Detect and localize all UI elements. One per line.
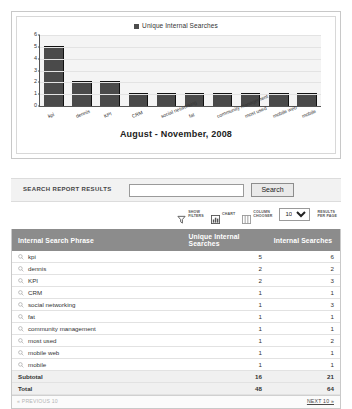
- table-row[interactable]: community management11: [12, 323, 340, 335]
- results-per-page-label: RESULTS PER PAGE: [317, 210, 337, 218]
- columns-icon: [242, 210, 251, 219]
- x-axis-tick-label: KPI: [103, 111, 112, 119]
- cell-unique-searches: 1: [183, 299, 268, 311]
- cell-internal-searches: 1: [268, 287, 340, 299]
- magnifier-icon: [18, 362, 24, 368]
- y-axis-minor-tick: [39, 52, 41, 53]
- cell-internal-searches: 3: [268, 275, 340, 287]
- cell-unique-searches: 1: [183, 323, 268, 335]
- total-row-label: Total: [12, 383, 183, 395]
- cell-internal-searches: 6: [268, 251, 340, 263]
- search-button[interactable]: Search: [251, 183, 294, 197]
- cell-phrase: dennis: [12, 263, 183, 275]
- phrase-label: KPI: [28, 277, 38, 284]
- phrase-label: kpi: [28, 253, 36, 260]
- y-axis-tick-mark: [38, 35, 40, 36]
- x-axis-tick-label: mobile web: [273, 105, 298, 119]
- column-chooser-label: COLUMN CHOOSER: [253, 210, 272, 218]
- cell-unique-searches: 2: [183, 275, 268, 287]
- table-row[interactable]: social networking13: [12, 299, 340, 311]
- table-row[interactable]: mobile11: [12, 359, 340, 371]
- cell-phrase: mobile web: [12, 347, 183, 359]
- cell-unique-searches: 1: [183, 287, 268, 299]
- phrase-label: mobile web: [28, 349, 59, 356]
- grid-line: [40, 59, 321, 60]
- column-header-unique[interactable]: Unique Internal Searches: [183, 229, 268, 251]
- phrase-label: CRM: [28, 289, 42, 296]
- table-row[interactable]: mobile web11: [12, 347, 340, 359]
- grid-line: [40, 71, 321, 72]
- funnel-icon: [177, 210, 186, 219]
- table-row[interactable]: dennis22: [12, 263, 340, 275]
- y-axis-minor-tick: [39, 40, 41, 41]
- plot-area: 0123456: [39, 35, 321, 107]
- table-row[interactable]: CRM11: [12, 287, 340, 299]
- cell-unique-searches: 5: [183, 251, 268, 263]
- chart-panel: Unique Internal Searches 0123456 kpidenn…: [11, 11, 341, 159]
- cell-unique-searches: 1: [183, 347, 268, 359]
- table-row[interactable]: kpi56: [12, 251, 340, 263]
- x-axis-tick-label: dennis: [75, 109, 91, 119]
- magnifier-icon: [18, 266, 24, 272]
- magnifier-icon: [18, 326, 24, 332]
- show-filters-control[interactable]: SHOW FILTERS: [177, 210, 204, 219]
- cell-phrase: social networking: [12, 299, 183, 311]
- cell-internal-searches: 2: [268, 335, 340, 347]
- magnifier-icon: [18, 314, 24, 320]
- results-per-page-select[interactable]: 102550100: [279, 208, 310, 221]
- cell-internal-searches: 3: [268, 299, 340, 311]
- total-row-total: 64: [268, 383, 340, 395]
- total-row: Total4864: [12, 383, 340, 395]
- cell-unique-searches: 2: [183, 263, 268, 275]
- table-head: Internal Search Phrase Unique Internal S…: [12, 229, 340, 251]
- y-axis-tick-mark: [38, 70, 40, 71]
- column-header-total[interactable]: Internal Searches: [268, 229, 340, 251]
- table-row[interactable]: most used12: [12, 335, 340, 347]
- y-axis-minor-tick: [39, 100, 41, 101]
- search-report-bar: SEARCH REPORT RESULTS Search: [11, 178, 341, 202]
- y-axis-minor-tick: [39, 88, 41, 89]
- subtotal-row-label: Subtotal: [12, 371, 183, 383]
- search-label: SEARCH REPORT RESULTS: [23, 186, 112, 192]
- subtotal-row-unique: 16: [183, 371, 268, 383]
- x-axis-tick-label: most used: [244, 106, 267, 119]
- table-body: kpi56dennis22KPI23CRM11social networking…: [12, 251, 340, 395]
- phrase-label: social networking: [28, 301, 75, 308]
- show-filters-label: SHOW FILTERS: [188, 210, 204, 218]
- total-row-unique: 48: [183, 383, 268, 395]
- legend-label: Unique Internal Searches: [142, 22, 218, 29]
- y-axis-minor-tick: [39, 76, 41, 77]
- cell-internal-searches: 2: [268, 263, 340, 275]
- cell-phrase: CRM: [12, 287, 183, 299]
- table-row[interactable]: fat11: [12, 311, 340, 323]
- next-page-link[interactable]: NEXT 10 »: [307, 398, 334, 404]
- cell-unique-searches: 1: [183, 359, 268, 371]
- column-header-phrase[interactable]: Internal Search Phrase: [12, 229, 183, 251]
- chart-toggle-control[interactable]: CHART: [211, 210, 235, 219]
- cell-internal-searches: 1: [268, 311, 340, 323]
- chart-bar[interactable]: [44, 46, 64, 106]
- cell-unique-searches: 1: [183, 311, 268, 323]
- legend-swatch-icon: [134, 24, 139, 29]
- search-input[interactable]: [129, 184, 244, 197]
- plot-wrapper: 0123456 kpidennisKPICRMsocial networking…: [17, 33, 335, 125]
- cell-phrase: community management: [12, 323, 183, 335]
- magnifier-icon: [18, 254, 24, 260]
- x-axis-labels: kpidennisKPICRMsocial networkingfatcommu…: [39, 107, 321, 125]
- grid-line: [40, 94, 321, 95]
- x-axis-tick-label: kpi: [47, 112, 55, 119]
- column-chooser-control[interactable]: COLUMN CHOOSER: [242, 210, 272, 219]
- y-axis-tick-mark: [38, 82, 40, 83]
- subtotal-row: Subtotal1621: [12, 371, 340, 383]
- x-axis-tick-label: fat: [188, 112, 195, 119]
- magnifier-icon: [18, 338, 24, 344]
- previous-page-link[interactable]: « PREVIOUS 10: [17, 398, 58, 404]
- chart-toggle-label: CHART: [222, 212, 235, 216]
- table-row[interactable]: KPI23: [12, 275, 340, 287]
- chart-legend: Unique Internal Searches: [17, 22, 335, 29]
- cell-phrase: kpi: [12, 251, 183, 263]
- phrase-label: most used: [28, 337, 57, 344]
- magnifier-icon: [18, 290, 24, 296]
- phrase-label: dennis: [28, 265, 46, 272]
